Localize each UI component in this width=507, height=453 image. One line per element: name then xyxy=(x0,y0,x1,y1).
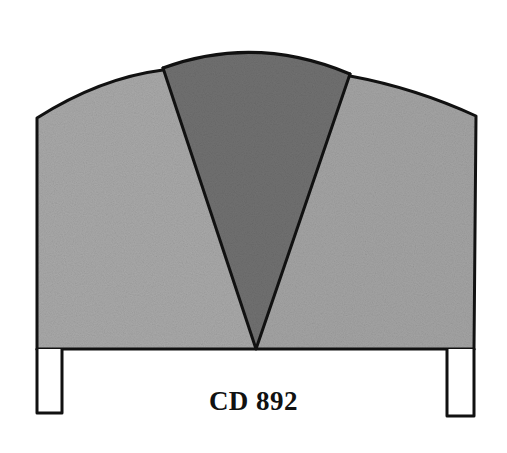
product-code-label: CD 892 xyxy=(0,386,507,417)
